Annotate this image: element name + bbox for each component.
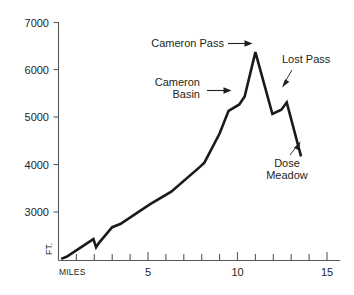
y-axis-unit-label: FT.: [44, 243, 54, 255]
x-label-10: 10: [231, 266, 243, 278]
cameron-basin-arrowhead: [224, 87, 232, 93]
x-label-15: 15: [321, 266, 333, 278]
y-label-4000: 4000: [25, 159, 49, 171]
x-label-5: 5: [145, 266, 151, 278]
y-label-6000: 6000: [25, 64, 49, 76]
annotation-cameron-pass: Cameron Pass: [151, 37, 252, 49]
lost-pass-label: Lost Pass: [282, 53, 331, 65]
chart-canvas: 7000 6000 5000 4000 3000 FT.: [0, 0, 354, 295]
elevation-profile-chart: 7000 6000 5000 4000 3000 FT.: [0, 0, 354, 295]
annotation-dose-meadow: Dose Meadow: [266, 142, 308, 182]
x-tick-marks: [76, 252, 327, 261]
y-tick-labels: 7000 6000 5000 4000 3000: [25, 17, 49, 219]
x-axis-unit-label: MILES: [59, 267, 86, 277]
x-tick-labels: 5 10 15: [145, 266, 333, 278]
y-label-5000: 5000: [25, 111, 49, 123]
y-label-3000: 3000: [25, 206, 49, 218]
y-label-7000: 7000: [25, 17, 49, 29]
dose-meadow-label-line1: Dose: [274, 157, 300, 169]
cameron-pass-label: Cameron Pass: [151, 37, 224, 49]
annotation-cameron-basin: Cameron Basin: [155, 76, 232, 100]
cameron-basin-label-line1: Cameron: [155, 76, 200, 88]
cameron-basin-label-line2: Basin: [172, 88, 200, 100]
annotation-lost-pass: Lost Pass: [282, 53, 331, 88]
dose-meadow-label-line2: Meadow: [266, 169, 308, 181]
lost-pass-arrowhead: [282, 79, 289, 87]
y-tick-marks: [54, 23, 59, 213]
cameron-pass-arrowhead: [245, 40, 253, 46]
